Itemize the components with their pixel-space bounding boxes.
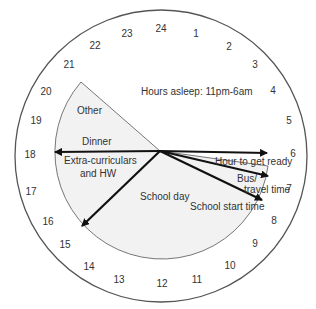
bus-label: Bus/ <box>237 173 257 184</box>
hour-label: 5 <box>286 115 292 126</box>
hour-label: 17 <box>25 186 37 197</box>
hour-label: 24 <box>155 23 167 34</box>
travel-time-label: travel time <box>244 184 291 195</box>
hour-label: 14 <box>83 261 95 272</box>
hour-label: 23 <box>121 28 133 39</box>
extracurricular-label: Extra-curriculars <box>64 155 137 166</box>
hour-label: 12 <box>156 278 168 289</box>
school-start-label: School start time <box>190 201 265 212</box>
hour-label: 20 <box>40 86 52 97</box>
sleep-label: Hours asleep: 11pm-6am <box>141 86 253 97</box>
hour-label: 2 <box>226 41 232 52</box>
clock-diagram: 24 1 2 3 4 5 6 7 8 9 10 11 12 13 14 15 1… <box>0 0 316 309</box>
hour-label: 4 <box>270 85 276 96</box>
hour-label: 1 <box>193 28 199 39</box>
hour-label: 18 <box>24 149 36 160</box>
hour-label: 22 <box>89 40 101 51</box>
hour-label: 8 <box>271 215 277 226</box>
hour-label: 3 <box>252 59 258 70</box>
hour-label: 21 <box>63 59 75 70</box>
hour-label: 19 <box>30 115 42 126</box>
get-ready-label: Hour to get ready <box>215 156 292 167</box>
hour-label: 10 <box>224 260 236 271</box>
hour-label: 15 <box>59 239 71 250</box>
hour-label: 13 <box>113 274 125 285</box>
dinner-label: Dinner <box>82 136 112 147</box>
homework-label: and HW <box>80 168 117 179</box>
school-day-label: School day <box>140 191 189 202</box>
other-label: Other <box>77 105 103 116</box>
hour-label: 9 <box>252 238 258 249</box>
hour-label: 11 <box>192 274 203 285</box>
arrow-6pm <box>55 151 160 152</box>
hour-label: 16 <box>42 216 54 227</box>
